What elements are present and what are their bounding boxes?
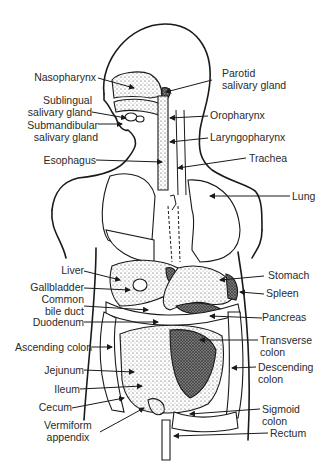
label-descending-colon: Descending colon [258, 362, 313, 385]
label-oropharynx: Oropharynx [210, 110, 265, 122]
label-vermiform-appendix: Vermiform appendix [44, 420, 92, 443]
label-transverse-colon: Transverse colon [260, 335, 312, 358]
label-nasopharynx: Nasopharynx [34, 72, 96, 84]
lungs [102, 174, 240, 262]
label-parotid-salivary-gland: Parotid salivary gland [222, 68, 286, 91]
label-duodenum: Duodenum [33, 317, 84, 329]
label-stomach: Stomach [268, 270, 309, 282]
label-sigmoid-colon: Sigmoid colon [262, 404, 300, 427]
label-sublingual-salivary-gland: Sublingual salivary gland [28, 95, 92, 118]
label-submandibular-salivary-gland: Submandibular salivary gland [27, 120, 98, 143]
label-ascending-colon: Ascending colon [15, 342, 92, 354]
label-jejunum: Jejunum [44, 365, 84, 377]
digestive-system-diagram: Nasopharynx Sublingual salivary gland Su… [0, 0, 333, 472]
label-gallbladder: Gallbladder [30, 282, 84, 294]
label-common-bile-duct: Common bile duct [41, 294, 84, 317]
label-trachea: Trachea [249, 153, 287, 165]
label-ileum: Ileum [54, 384, 80, 396]
label-cecum: Cecum [39, 402, 72, 414]
label-esophagus: Esophagus [43, 155, 96, 167]
label-laryngopharynx: Laryngopharynx [210, 132, 285, 144]
label-pancreas: Pancreas [262, 312, 306, 324]
label-rectum: Rectum [270, 428, 306, 440]
abdominal-organs [100, 260, 243, 460]
label-spleen: Spleen [266, 288, 299, 300]
label-lung: Lung [292, 191, 315, 203]
label-liver: Liver [61, 265, 84, 277]
